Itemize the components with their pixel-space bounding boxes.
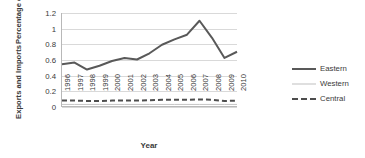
legend-swatch-icon <box>292 94 316 104</box>
legend-label: Eastern <box>320 64 347 73</box>
legend-label: Western <box>320 79 349 88</box>
series-line-eastern <box>62 21 237 70</box>
y-axis-tick-label: 1.2 <box>45 9 56 18</box>
legend-swatch-icon <box>292 64 316 74</box>
y-axis-tick-label: 0 <box>52 103 56 112</box>
y-axis-title-line-1: Exports and Imports <box>14 45 23 119</box>
y-axis-tick-label: 0.8 <box>45 40 56 49</box>
y-axis-tick-label: 0.2 <box>45 87 56 96</box>
y-axis-tick-labels: 00.20.40.60.811.2 <box>26 0 59 158</box>
x-axis-tick-labels: 1996199719981999200020012002200320042005… <box>61 108 237 140</box>
legend-swatch-icon <box>292 79 316 89</box>
y-axis-title-line-2: Percentage of Regional GDP <box>14 0 23 44</box>
y-axis-tick-label: 0.6 <box>45 56 56 65</box>
chart-legend: EasternWesternCentral <box>292 61 364 106</box>
x-axis-tick-label: 2010 <box>240 74 270 108</box>
y-axis-tick-label: 1 <box>52 24 56 33</box>
y-axis-tick-label: 0.4 <box>45 71 56 80</box>
legend-item-central[interactable]: Central <box>292 91 364 106</box>
x-axis-title: Year <box>61 141 237 150</box>
legend-item-western[interactable]: Western <box>292 76 364 91</box>
legend-label: Central <box>320 94 345 103</box>
legend-item-eastern[interactable]: Eastern <box>292 61 364 76</box>
line-chart: Exports and Imports Percentage of Region… <box>0 0 365 158</box>
